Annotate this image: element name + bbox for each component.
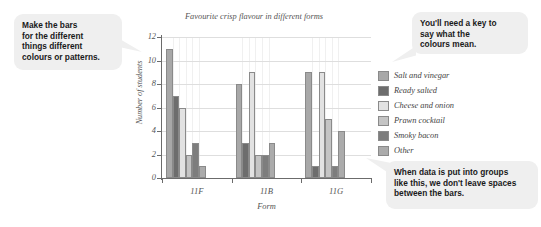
bar xyxy=(312,166,319,178)
bar xyxy=(242,143,249,178)
callout-groups-line-2: like this, we don't leave spaces xyxy=(394,178,530,189)
legend-swatch-icon xyxy=(378,131,389,141)
legend-swatch-icon xyxy=(378,146,389,156)
bar xyxy=(325,119,332,178)
legend-item: Smoky bacon xyxy=(378,128,528,143)
x-axis-tick xyxy=(301,178,302,183)
bar xyxy=(179,108,186,179)
callout-key-line-2: say what the xyxy=(420,29,520,40)
y-axis-tick xyxy=(157,178,162,179)
y-axis-tick-label: 6 xyxy=(152,103,156,112)
y-axis-tick-label: 12 xyxy=(148,32,156,41)
chart-title: Favourite crisp flavour in different for… xyxy=(129,12,379,21)
bar xyxy=(319,72,326,178)
bar xyxy=(269,143,276,178)
callout-make-the-bars: Make the bars for the different things d… xyxy=(14,14,122,70)
legend-item-label: Salt and vinegar xyxy=(394,71,449,80)
y-axis-tick xyxy=(157,131,162,132)
bar xyxy=(249,72,256,178)
y-axis-tick xyxy=(157,37,162,38)
bar xyxy=(236,84,243,178)
callout-grouped-data: When data is put into groups like this, … xyxy=(386,161,538,209)
callout-bars-line-1: Make the bars xyxy=(22,20,114,31)
bar xyxy=(186,155,193,179)
bar-group-11B xyxy=(236,37,276,178)
bar xyxy=(255,155,262,179)
y-axis-tick xyxy=(157,155,162,156)
legend-swatch-icon xyxy=(378,86,389,96)
bar xyxy=(262,155,269,179)
callout-bars-line-4: colours or patterns. xyxy=(22,52,114,63)
callout-groups-line-1: When data is put into groups xyxy=(394,167,530,178)
y-axis-tick-label: 8 xyxy=(152,79,156,88)
legend-item-label: Smoky bacon xyxy=(394,131,438,140)
legend-item: Prawn cocktail xyxy=(378,113,528,128)
legend-item-label: Cheese and onion xyxy=(394,101,454,110)
x-axis-title: Form xyxy=(162,202,371,211)
bar xyxy=(199,166,206,178)
legend-item: Ready salted xyxy=(378,83,528,98)
chart-legend: Salt and vinegarReady saltedCheese and o… xyxy=(378,68,528,158)
y-axis-tick-labels: 024681012 xyxy=(129,10,156,210)
legend-swatch-icon xyxy=(378,116,389,126)
bar-group-11G xyxy=(305,37,345,178)
legend-item: Other xyxy=(378,143,528,158)
y-axis-tick xyxy=(157,84,162,85)
legend-item: Salt and vinegar xyxy=(378,68,528,83)
y-axis-tick-label: 0 xyxy=(152,173,156,182)
x-axis-line xyxy=(161,178,372,179)
bar xyxy=(305,72,312,178)
bar xyxy=(338,131,345,178)
legend-item-label: Prawn cocktail xyxy=(394,116,445,125)
bar xyxy=(166,49,173,178)
y-axis-tick xyxy=(157,61,162,62)
callout-bars-line-3: things different xyxy=(22,41,114,52)
legend-item-label: Ready salted xyxy=(394,86,437,95)
legend-item-label: Other xyxy=(394,146,414,155)
bar-group-11F xyxy=(166,37,206,178)
callout-key-line-3: colours mean. xyxy=(420,39,520,50)
callout-groups-line-3: between the bars. xyxy=(394,188,530,199)
y-axis-tick-label: 4 xyxy=(152,126,156,135)
x-axis-category-label: 11G xyxy=(301,186,371,196)
legend-item: Cheese and onion xyxy=(378,98,528,113)
bar xyxy=(332,166,339,178)
legend-swatch-icon xyxy=(378,101,389,111)
callout-key-line-1: You'll need a key to xyxy=(420,18,520,29)
plot-area xyxy=(162,37,371,178)
y-axis-tick xyxy=(157,108,162,109)
legend-swatch-icon xyxy=(378,71,389,81)
x-axis-tick xyxy=(232,178,233,183)
x-axis-tick xyxy=(162,178,163,183)
worked-example-figure: Make the bars for the different things d… xyxy=(0,0,541,227)
x-axis-category-label: 11F xyxy=(162,186,232,196)
bar xyxy=(173,96,180,178)
bar xyxy=(192,143,199,178)
y-axis-tick-label: 2 xyxy=(152,150,156,159)
y-axis-tick-label: 10 xyxy=(148,56,156,65)
x-axis-category-label: 11B xyxy=(232,186,302,196)
callout-bars-line-2: for the different xyxy=(22,31,114,42)
x-axis-tick xyxy=(371,178,372,183)
bar-chart: Favourite crisp flavour in different for… xyxy=(129,10,379,218)
callout-need-a-key: You'll need a key to say what the colour… xyxy=(412,12,528,54)
